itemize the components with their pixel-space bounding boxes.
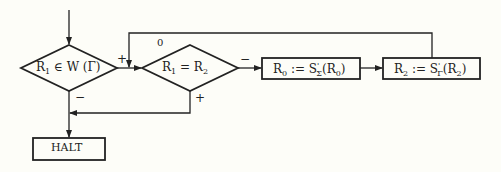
label-part: R: [273, 62, 282, 76]
label-part: =: [176, 60, 194, 74]
label-part: (R: [322, 62, 336, 76]
label-part: ∈ W (Γ): [50, 60, 100, 74]
label-part: R: [36, 60, 45, 74]
edge-label-d2-minus: −: [240, 52, 250, 66]
decision-membership-label: R1 ∈ W (Γ): [36, 60, 101, 76]
edge-label-loop-zero: 0: [157, 37, 163, 48]
edge-label-d1-plus: +: [117, 52, 127, 66]
label-part: R: [162, 60, 171, 74]
label-part: R: [194, 60, 203, 74]
process-r0-label: R0 := S'Σ(R0): [273, 61, 345, 78]
decision-equal-label: R1 = R2: [162, 60, 208, 76]
label-part: := S: [287, 62, 317, 76]
label-part: ): [341, 62, 346, 76]
label-subscript: 2: [203, 67, 208, 76]
label-part: ): [462, 62, 467, 76]
arrow-d2-to-halt: [70, 91, 190, 113]
edge-label-d1-minus: −: [75, 90, 85, 104]
label-part: R: [394, 62, 403, 76]
edge-label-d2-plus: +: [195, 91, 205, 105]
label-part: := S: [408, 62, 438, 76]
label-part: (R: [443, 62, 457, 76]
halt-label: HALT: [51, 141, 82, 154]
process-r2-label: R2 := S'Γ(R2): [394, 61, 466, 78]
